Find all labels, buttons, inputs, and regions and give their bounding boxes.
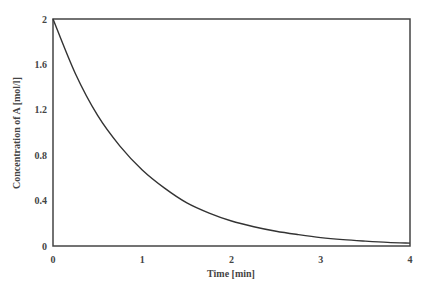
x-tick-label: 1: [140, 254, 145, 265]
chart-canvas: 00.40.81.21.62 01234 Time [min] Concentr…: [0, 0, 429, 297]
y-tick-label: 1.2: [35, 104, 48, 115]
y-axis-title: Concentration of A [mol/l]: [11, 77, 22, 189]
y-tick-label: 0.4: [35, 195, 48, 206]
x-axis-title: Time [min]: [207, 268, 255, 279]
y-tick-label: 2: [42, 14, 47, 25]
x-tick-label: 2: [229, 254, 234, 265]
y-tick-label: 1.6: [35, 59, 48, 70]
x-tick-label: 4: [408, 254, 413, 265]
plot-border: [53, 19, 410, 246]
plot-area-frame: [53, 19, 410, 246]
x-tick-label: 3: [318, 254, 323, 265]
x-tick-label: 0: [51, 254, 56, 265]
data-series: [53, 19, 410, 243]
x-axis-ticks: 01234: [51, 254, 413, 265]
y-axis-ticks: 00.40.81.21.62: [35, 14, 48, 252]
y-tick-label: 0: [42, 241, 47, 252]
concentration-curve: [53, 19, 410, 243]
y-tick-label: 0.8: [35, 150, 48, 161]
